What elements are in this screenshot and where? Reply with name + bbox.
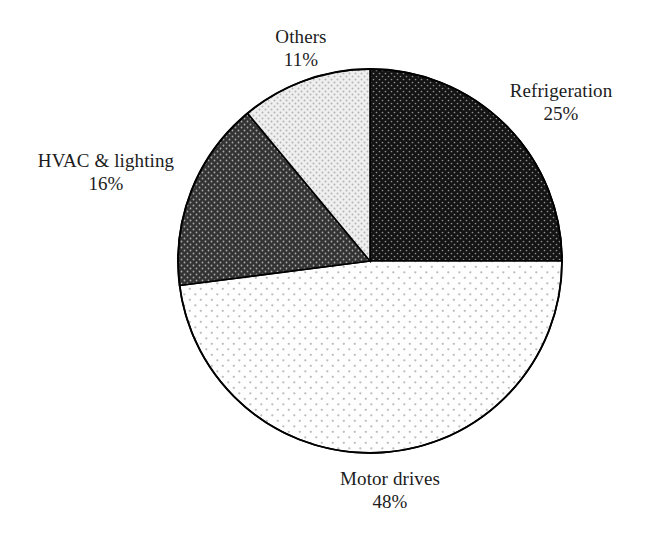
pie-label-motor-drives-value: 48%: [292, 491, 488, 514]
pie-label-hvac-lighting-value: 16%: [8, 173, 204, 196]
pie-label-motor-drives: Motor drives 48%: [292, 468, 488, 514]
pie-label-hvac-lighting-name: HVAC & lighting: [8, 150, 204, 173]
pie-label-refrigeration: Refrigeration 25%: [474, 80, 648, 126]
pie-label-refrigeration-name: Refrigeration: [474, 80, 648, 103]
pie-label-others-name: Others: [216, 26, 386, 49]
pie-label-refrigeration-value: 25%: [474, 103, 648, 126]
pie-label-motor-drives-name: Motor drives: [292, 468, 488, 491]
pie-chart-figure: Others 11% Refrigeration 25% HVAC & ligh…: [0, 0, 648, 540]
pie-slice-motor-drives[interactable]: [180, 261, 562, 453]
pie-label-others: Others 11%: [216, 26, 386, 72]
pie-label-hvac-lighting: HVAC & lighting 16%: [8, 150, 204, 196]
pie-label-others-value: 11%: [216, 49, 386, 72]
